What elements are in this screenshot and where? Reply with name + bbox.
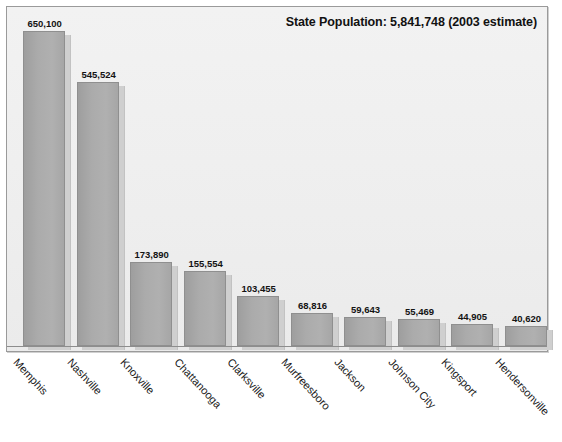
category-label-murfreesboro: Murfreesboro: [279, 356, 332, 412]
bar-value-label: 155,554: [189, 258, 223, 269]
bar[interactable]: 68,816: [291, 313, 333, 346]
bar[interactable]: 545,524: [77, 82, 119, 346]
bar-value-label: 44,905: [458, 311, 487, 322]
bar-value-label: 650,100: [28, 18, 62, 29]
bar-value-label: 545,524: [82, 69, 116, 80]
bar-value-label: 40,620: [512, 313, 541, 324]
category-label-jackson: Jackson: [332, 356, 368, 394]
category-label-chattanooga: Chattanooga: [172, 356, 224, 410]
bar[interactable]: 40,620: [505, 326, 547, 346]
bar-value-label: 103,455: [242, 283, 276, 294]
plot-frame: State Population: 5,841,748 (2003 estima…: [6, 6, 548, 352]
bar[interactable]: 155,554: [184, 271, 226, 346]
bar[interactable]: 44,905: [451, 324, 493, 346]
category-axis-labels: MemphisNashvilleKnoxvilleChattanoogaClar…: [8, 356, 556, 442]
bar-value-label: 59,643: [351, 304, 380, 315]
bar[interactable]: 103,455: [237, 296, 279, 346]
category-label-knoxville: Knoxville: [118, 356, 157, 396]
category-label-hendersonville: Hendersonville: [493, 356, 551, 417]
bar[interactable]: 650,100: [23, 31, 65, 346]
bar[interactable]: 55,469: [398, 319, 440, 346]
category-label-nashville: Nashville: [65, 356, 104, 397]
category-label-kingsport: Kingsport: [439, 356, 479, 398]
category-label-johnson-city: Johnson City: [386, 356, 438, 411]
bar[interactable]: 59,643: [344, 317, 386, 346]
bar-value-label: 55,469: [405, 306, 434, 317]
axis-baseline: [7, 346, 547, 347]
bar-value-label: 68,816: [298, 300, 327, 311]
bar[interactable]: 173,890: [130, 262, 172, 346]
category-label-clarksville: Clarksville: [225, 356, 268, 401]
population-bar-chart: State Population: 5,841,748 (2003 estima…: [0, 0, 562, 442]
bar-value-label: 173,890: [135, 249, 169, 260]
bars-area: 650,100545,524173,890155,554103,45568,81…: [15, 7, 541, 346]
category-label-memphis: Memphis: [11, 356, 50, 397]
